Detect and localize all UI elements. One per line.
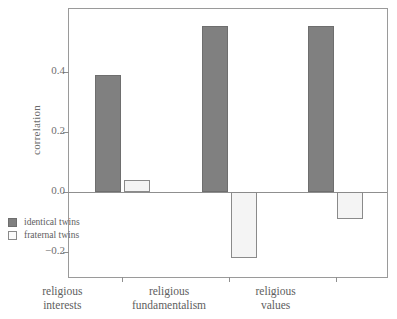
bar	[124, 180, 150, 192]
legend-item-identical-twins: identical twins	[8, 216, 80, 229]
x-axis-tick	[229, 277, 230, 282]
x-axis-tick-label: religious interests	[2, 285, 122, 312]
legend-swatch-icon-identical	[8, 218, 17, 227]
y-axis-tick-label: 0.0	[51, 184, 65, 196]
bar	[231, 192, 257, 258]
y-axis-tick-label: 0.4	[51, 64, 65, 76]
x-axis-tick-label: religious fundamentalism	[109, 285, 229, 312]
bar	[202, 26, 228, 193]
y-axis-tick-label: 0.2	[51, 124, 65, 136]
bar	[308, 26, 334, 193]
legend-label: fraternal twins	[24, 229, 79, 242]
bar	[337, 192, 363, 219]
chart-legend: identical twins fraternal twins	[8, 216, 80, 242]
bar	[95, 75, 121, 192]
legend-label: identical twins	[24, 216, 80, 229]
y-axis-title: correlation	[30, 50, 42, 210]
legend-swatch-icon-fraternal	[8, 231, 17, 240]
x-axis-tick	[122, 277, 123, 282]
x-axis-tick-label: religious values	[216, 285, 336, 312]
chart-figure: correlation 0.40.20.0−0.2religious inter…	[0, 0, 397, 319]
y-axis-tick-label: −0.2	[45, 244, 65, 256]
plot-area: 0.40.20.0−0.2religious interestsreligiou…	[68, 8, 388, 278]
legend-item-fraternal-twins: fraternal twins	[8, 229, 80, 242]
x-axis-tick	[336, 277, 337, 282]
plot-inner: 0.40.20.0−0.2religious interestsreligiou…	[69, 9, 387, 277]
